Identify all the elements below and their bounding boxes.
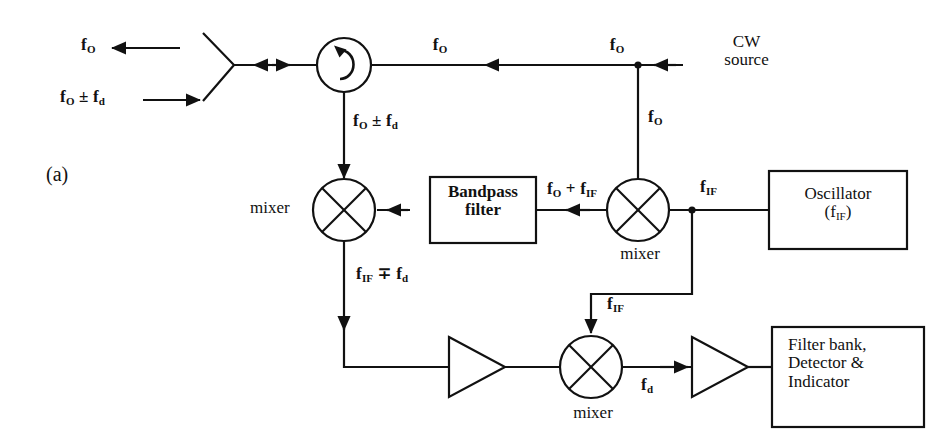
label-cd-op: ±	[367, 111, 385, 130]
label-c2a-base: f	[433, 35, 439, 54]
label-if3-sub: IF	[613, 302, 624, 314]
label-m2o-base: f	[547, 179, 553, 198]
label-cd-base: f	[353, 111, 359, 130]
label-sbd-sub: O	[654, 115, 663, 127]
cw-source-line1: CW	[733, 32, 760, 51]
output-block-line2: Detector &	[788, 353, 864, 372]
label-source-to-circulator: fO	[610, 36, 624, 54]
if-feed-path	[591, 210, 692, 333]
label-cd-sub2: d	[392, 119, 398, 131]
cw-source-label: CW source	[683, 33, 810, 70]
label-m1o-op: ∓	[373, 264, 396, 283]
label-tx-out-base: f	[81, 35, 87, 54]
label-osc-out: fIF	[700, 178, 717, 196]
label-mixer3-out: fd	[641, 376, 653, 394]
label-tx-out: fO	[81, 36, 95, 54]
label-tx-out-sub: O	[87, 43, 96, 55]
label-oo-base: f	[700, 177, 706, 196]
output-block-line3: Indicator	[788, 372, 849, 391]
label-mixer1-out: fIF ∓ fd	[356, 265, 408, 283]
circulator-rotation-arrowhead	[334, 46, 347, 58]
label-sbd-base: f	[648, 107, 654, 126]
amplifier-triangle-icon	[449, 337, 505, 397]
circulator-icon	[317, 38, 371, 92]
output-block-label: Filter bank, Detector & Indicator	[788, 336, 918, 391]
label-if3-base: f	[607, 294, 613, 313]
bandpass-filter-line2: filter	[465, 200, 501, 219]
label-s2c-base: f	[610, 35, 616, 54]
label-m2o-sub2: IF	[586, 187, 597, 199]
label-m2o-op: +	[561, 179, 580, 198]
oscillator-line2-post: )	[846, 202, 852, 221]
label-rx-in-base: f	[60, 87, 66, 106]
label-c2a-sub: O	[439, 43, 448, 55]
label-oo-sub: IF	[706, 185, 717, 197]
label-rx-in: fO ± fd	[60, 88, 105, 106]
bandpass-filter-label: Bandpass filter	[430, 183, 536, 220]
oscillator-line1: Oscillator	[804, 184, 871, 203]
label-cd-base2: f	[386, 111, 392, 130]
amplifier-triangle-icon	[692, 337, 748, 397]
label-rx-in-base2: f	[93, 87, 99, 106]
label-m1o-sub2: d	[402, 272, 408, 284]
label-source-branch-down: fO	[648, 108, 662, 126]
label-circulator-down: fO ± fd	[353, 112, 398, 130]
label-m2o-sub: O	[553, 187, 562, 199]
label-rx-in-sub2: d	[99, 95, 105, 107]
figure-canvas: (a) fO fO ± fd fO fO fO fO ± fd mixer Ba…	[0, 0, 949, 447]
label-rx-in-op: ±	[74, 87, 92, 106]
bandpass-filter-line1: Bandpass	[448, 182, 518, 201]
mixer-3-label: mixer	[573, 404, 613, 422]
oscillator-line2-sub: IF	[836, 210, 846, 222]
label-s2c-sub: O	[616, 43, 625, 55]
oscillator-line2-pre: (f	[825, 202, 836, 221]
panel-label: (a)	[46, 164, 68, 186]
label-m1o-base: f	[356, 264, 362, 283]
oscillator-line2: (fIF)	[825, 202, 852, 221]
mixer1-out-to-amp1	[344, 328, 449, 367]
mixer-1-label: mixer	[250, 199, 290, 217]
mixer-2-label: mixer	[620, 245, 660, 263]
label-m1o-sub: IF	[362, 272, 373, 284]
label-if-to-mixer3: fIF	[607, 295, 624, 313]
horn-antenna-icon	[203, 33, 234, 101]
oscillator-label: Oscillator (fIF)	[769, 185, 907, 222]
label-circulator-to-antenna: fO	[433, 36, 447, 54]
label-cd-sub: O	[359, 119, 368, 131]
label-mixer2-out: fO + fIF	[547, 180, 597, 198]
output-block-line1: Filter bank,	[788, 335, 866, 354]
cw-source-line2: source	[724, 50, 768, 69]
label-rx-in-sub: O	[66, 95, 75, 107]
label-m3o-base: f	[641, 375, 647, 394]
label-m3o-sub: d	[647, 383, 653, 395]
